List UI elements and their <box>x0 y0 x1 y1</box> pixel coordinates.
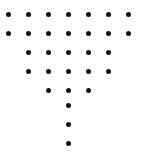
dot-r8-c3 <box>66 141 71 146</box>
dot-r1-c1 <box>26 12 31 17</box>
dot-r3-c3 <box>66 50 71 55</box>
dot-r5-c4 <box>86 88 91 93</box>
dot-r1-c3 <box>66 12 71 17</box>
dot-r3-c4 <box>86 50 91 55</box>
dot-pattern-figure <box>0 0 142 158</box>
dot-r3-c2 <box>46 50 51 55</box>
dot-r4-c3 <box>66 69 71 74</box>
dot-r4-c5 <box>106 69 111 74</box>
dot-r5-c3 <box>66 88 71 93</box>
dot-r7-c3 <box>66 122 71 127</box>
dot-r2-c0 <box>6 31 11 36</box>
dot-r3-c5 <box>106 50 111 55</box>
dot-r1-c6 <box>126 12 131 17</box>
dot-r2-c4 <box>86 31 91 36</box>
dot-r2-c3 <box>66 31 71 36</box>
dot-r3-c1 <box>26 50 31 55</box>
dot-r1-c4 <box>86 12 91 17</box>
dot-r2-c1 <box>26 31 31 36</box>
dot-r1-c5 <box>106 12 111 17</box>
dot-r6-c3 <box>66 103 71 108</box>
dot-r2-c6 <box>126 31 131 36</box>
dot-r4-c1 <box>26 69 31 74</box>
dot-r1-c0 <box>6 12 11 17</box>
dot-r5-c2 <box>46 88 51 93</box>
dot-r1-c2 <box>46 12 51 17</box>
dot-r4-c2 <box>46 69 51 74</box>
dot-r2-c2 <box>46 31 51 36</box>
dot-r2-c5 <box>106 31 111 36</box>
dot-r4-c4 <box>86 69 91 74</box>
